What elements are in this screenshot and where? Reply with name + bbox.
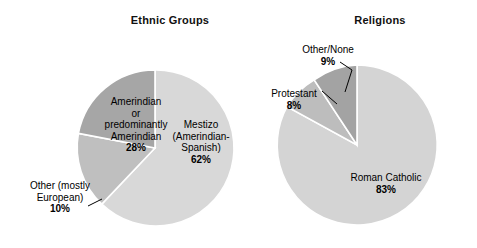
pie-label-other-european-line1: Other (mostly xyxy=(14,180,106,192)
pie-label-other-none: Other/None 9% xyxy=(286,44,370,67)
pie-label-mestizo-line2: (Amerindian- xyxy=(163,131,239,143)
pie-label-amerindian-line1: Amerindian xyxy=(93,96,179,108)
pie-label-protestant-line1: Protestant xyxy=(254,88,334,100)
pie-label-other-european: Other (mostly European) 10% xyxy=(14,180,106,215)
pie-label-mestizo: Mestizo (Amerindian- Spanish) 62% xyxy=(163,119,239,165)
pie-label-roman-catholic-line1: Roman Catholic xyxy=(332,172,440,184)
pie-value-other-none: 9% xyxy=(286,56,370,68)
pie-label-mestizo-line3: Spanish) xyxy=(163,142,239,154)
pie-value-protestant: 8% xyxy=(254,100,334,112)
pie-label-roman-catholic: Roman Catholic 83% xyxy=(332,172,440,195)
pie-value-roman-catholic: 83% xyxy=(332,184,440,196)
pie-label-amerindian-line2: or xyxy=(93,108,179,120)
pie-charts-figure: Ethnic Groups Religions Amerindian or pr… xyxy=(0,0,477,248)
pie-value-mestizo: 62% xyxy=(163,154,239,166)
pie-label-other-none-line1: Other/None xyxy=(286,44,370,56)
pie-label-other-european-line2: European) xyxy=(14,192,106,204)
pie-label-mestizo-line1: Mestizo xyxy=(163,119,239,131)
pie-value-other-european: 10% xyxy=(14,203,106,215)
pie-label-protestant: Protestant 8% xyxy=(254,88,334,111)
